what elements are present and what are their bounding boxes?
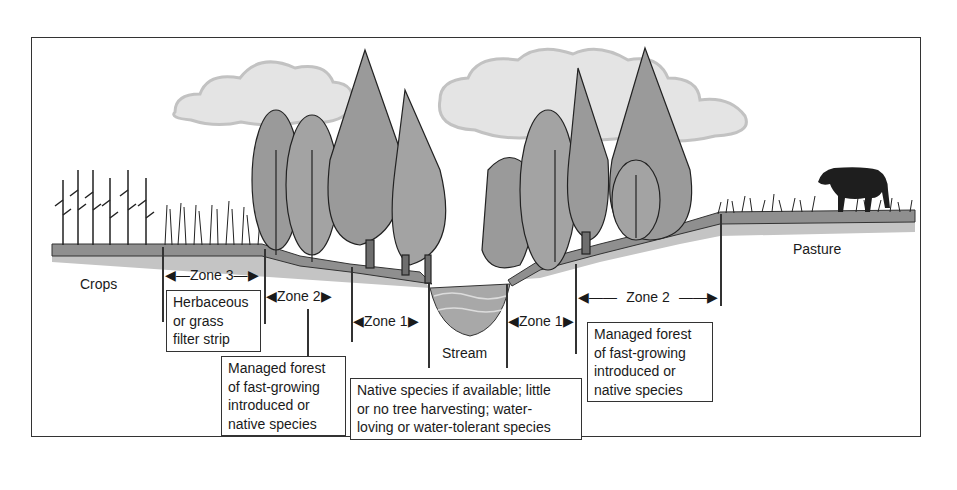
zone-divider — [264, 249, 266, 324]
arrow-left-icon: ◀ — [508, 313, 519, 329]
pasture-label: Pasture — [793, 241, 841, 258]
zone-divider — [162, 247, 164, 322]
arrow-right-icon: —▶ — [234, 267, 259, 283]
callout-leader — [307, 309, 309, 357]
zone1-description: Native species if available; little or n… — [350, 378, 582, 440]
arrow-left-icon: ◀ — [353, 313, 364, 329]
zone3-arrow: ◀—Zone 3—▶ — [165, 267, 263, 283]
zone1-left-arrow: ◀Zone 1▶ — [353, 313, 419, 329]
arrow-left-icon: ◀ — [266, 288, 277, 304]
zone1-right-arrow: ◀Zone 1▶ — [508, 313, 574, 329]
zone2-right-description: Managed forest of fast-growing introduce… — [587, 322, 713, 402]
grass-strip-icon — [165, 201, 260, 245]
zone-divider — [351, 267, 353, 342]
arrow-right-icon: ▶ — [321, 288, 332, 304]
zone2-right-arrow: ◀——Zone 2——▶ — [578, 289, 718, 305]
arrow-left-icon: ◀— — [165, 267, 190, 283]
arrow-right-icon: ——▶ — [679, 289, 718, 305]
zone-divider — [575, 264, 577, 354]
zone2-left-arrow: ◀Zone 2▶ — [266, 288, 332, 304]
zone2-left-description: Managed forest of fast-growing introduce… — [221, 356, 346, 436]
cloud-icon — [174, 62, 353, 125]
zone-divider — [720, 214, 722, 306]
arrow-right-icon: ▶ — [408, 313, 419, 329]
arrow-right-icon: ▶ — [563, 313, 574, 329]
zone3-description: Herbaceous or grass filter strip — [166, 290, 261, 352]
arrow-left-icon: ◀—— — [578, 289, 617, 305]
crops-label: Crops — [80, 276, 117, 293]
zone-divider — [428, 284, 430, 368]
corn-crops-icon — [55, 170, 154, 245]
stream-label: Stream — [442, 345, 487, 362]
